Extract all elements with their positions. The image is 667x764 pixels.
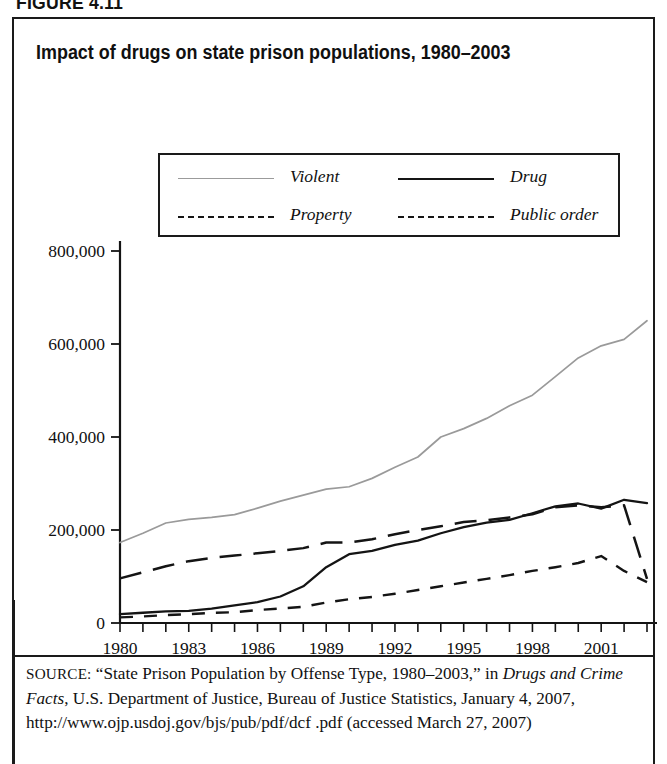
y-axis-tick-label: 800,000 bbox=[48, 241, 105, 261]
legend-row-1: Violent Drug bbox=[160, 157, 618, 199]
legend-label-violent: Violent bbox=[290, 166, 339, 187]
legend-item-property: Property bbox=[178, 195, 398, 237]
chart-series bbox=[120, 321, 647, 618]
y-axis-tick-label: 600,000 bbox=[48, 334, 105, 354]
chart-plot-area: 0200,000400,000600,000800,00019801983198… bbox=[14, 19, 657, 659]
figure-number: FIGURE 4.11 bbox=[16, 0, 123, 14]
y-axis-tick-label: 200,000 bbox=[48, 520, 105, 540]
x-axis-tick-label: 1983 bbox=[171, 638, 206, 658]
legend-label-drug: Drug bbox=[510, 166, 547, 187]
legend-item-drug: Drug bbox=[398, 157, 618, 199]
source-text-part1: “State Prison Population by Offense Type… bbox=[92, 664, 503, 683]
chart-legend: Violent Drug Property Public order bbox=[158, 153, 620, 237]
legend-item-violent: Violent bbox=[178, 157, 398, 199]
legend-label-public-order: Public order bbox=[510, 204, 598, 225]
figure-frame: Impact of drugs on state prison populati… bbox=[12, 17, 655, 657]
chart-axes: 0200,000400,000600,000800,00019801983198… bbox=[48, 241, 657, 658]
page-rule-left bbox=[12, 600, 15, 764]
series-line-violent bbox=[120, 321, 647, 543]
x-axis-tick-label: 1995 bbox=[446, 638, 481, 658]
line-long-dash-icon bbox=[178, 216, 274, 218]
x-axis-tick-label: 1980 bbox=[103, 638, 138, 658]
x-axis-tick-label: 1986 bbox=[240, 638, 275, 658]
y-axis-tick-label: 0 bbox=[96, 613, 105, 633]
page-rule-right bbox=[653, 600, 656, 764]
series-line-drug bbox=[120, 500, 647, 614]
series-line-public-order bbox=[120, 556, 647, 617]
legend-item-public-order: Public order bbox=[398, 195, 618, 237]
source-note: SOURCE: “State Prison Population by Offe… bbox=[26, 662, 650, 736]
line-solid-thick-icon bbox=[398, 178, 494, 180]
x-axis-tick-label: 1998 bbox=[515, 638, 550, 658]
line-short-dash-icon bbox=[398, 216, 494, 218]
source-text-part2: , U.S. Department of Justice, Bureau of … bbox=[26, 689, 575, 733]
x-axis-tick-label: 1992 bbox=[377, 638, 412, 658]
line-solid-thin-gray-icon bbox=[178, 178, 274, 179]
x-axis-tick-label: 2001 bbox=[584, 638, 619, 658]
series-line-property bbox=[120, 505, 647, 578]
x-axis-tick-label: 1989 bbox=[309, 638, 344, 658]
legend-label-property: Property bbox=[290, 204, 352, 225]
source-label: SOURCE: bbox=[26, 665, 92, 682]
legend-row-2: Property Public order bbox=[160, 195, 618, 237]
y-axis-tick-label: 400,000 bbox=[48, 427, 105, 447]
